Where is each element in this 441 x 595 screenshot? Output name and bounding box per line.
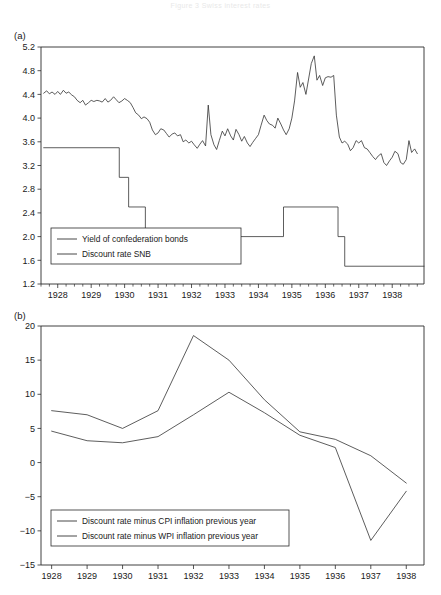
x-tick-label: 1935 [282, 290, 302, 298]
panel-b-plot: −15−10−505101520192819291930193119321933… [0, 310, 441, 595]
y-tick-label: −10 [20, 526, 35, 536]
y-tick-label: 2.4 [22, 208, 35, 218]
x-tick-label: 1931 [148, 571, 168, 581]
x-tick-label: 1928 [42, 571, 62, 581]
y-tick-label: 20 [25, 321, 35, 331]
y-tick-label: 0 [30, 458, 35, 468]
y-tick-label: 2.8 [22, 184, 35, 194]
x-tick-label: 1930 [113, 571, 133, 581]
y-tick-label: 1.2 [22, 279, 35, 289]
x-tick-label: 1932 [183, 571, 203, 581]
x-tick-label: 1934 [248, 290, 268, 298]
x-tick-label: 1929 [81, 290, 101, 298]
y-tick-label: 1.6 [22, 256, 35, 266]
series-line-1 [44, 56, 418, 166]
panel-a-label: (a) [14, 30, 26, 41]
x-tick-label: 1937 [361, 571, 381, 581]
x-tick-label: 1928 [48, 290, 68, 298]
x-tick-label: 1937 [349, 290, 369, 298]
y-tick-label: 4.4 [22, 90, 35, 100]
series-line-1 [52, 336, 407, 484]
x-tick-label: 1938 [396, 571, 416, 581]
y-tick-label: 5 [30, 424, 35, 434]
y-tick-label: 5.2 [22, 42, 35, 52]
x-tick-label: 1936 [325, 571, 345, 581]
x-tick-label: 1929 [77, 571, 97, 581]
x-tick-label: 1933 [219, 571, 239, 581]
figure-header: Figure 3 Swiss interest rates [0, 0, 441, 12]
panel-b: (b) −15−10−50510152019281929193019311932… [0, 310, 441, 595]
y-tick-label: 2.0 [22, 232, 35, 242]
legend-label-2: Discount rate minus WPI inflation previo… [82, 531, 258, 541]
legend-label-1: Discount rate minus CPI inflation previo… [82, 516, 256, 526]
x-tick-label: 1933 [215, 290, 235, 298]
y-tick-label: 3.6 [22, 137, 35, 147]
x-tick-label: 1931 [148, 290, 168, 298]
y-tick-label: 3.2 [22, 161, 35, 171]
legend-label-1: Yield of confederation bonds [82, 234, 188, 244]
panel-a: (a) 1.21.62.02.42.83.23.64.04.44.85.2192… [0, 30, 441, 298]
y-tick-label: −15 [20, 560, 35, 570]
x-tick-label: 1934 [254, 571, 274, 581]
x-tick-label: 1936 [315, 290, 335, 298]
figure-container: Figure 3 Swiss interest rates (a) 1.21.6… [0, 0, 441, 595]
panel-a-plot: 1.21.62.02.42.83.23.64.04.44.85.21928192… [0, 30, 441, 298]
y-tick-label: 15 [25, 355, 35, 365]
x-tick-label: 1935 [290, 571, 310, 581]
x-tick-label: 1932 [182, 290, 202, 298]
panel-b-label: (b) [14, 310, 26, 321]
y-tick-label: −5 [25, 492, 35, 502]
x-tick-label: 1930 [115, 290, 135, 298]
y-tick-label: 4.0 [22, 113, 35, 123]
legend-label-2: Discount rate SNB [82, 249, 151, 259]
y-tick-label: 10 [25, 389, 35, 399]
x-tick-label: 1938 [382, 290, 402, 298]
y-tick-label: 4.8 [22, 66, 35, 76]
